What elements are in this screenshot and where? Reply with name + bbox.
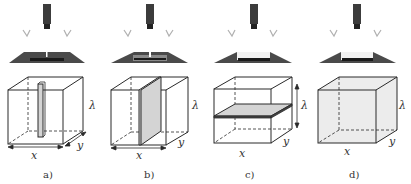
panel-caption: a) [43,170,53,180]
camera-icon [43,4,51,29]
light-source-icon [214,52,292,63]
light-source-icon [111,51,188,63]
x-label: x [31,150,37,161]
panel-b-graphic [100,0,203,184]
camera-icon [353,4,361,29]
lambda-dimension-arrow [295,84,299,128]
lambda-label: λ [192,100,199,111]
panel-caption: c) [245,170,255,180]
lambda-label: λ [399,100,406,111]
panel-caption: b) [144,170,154,180]
panel-b: λ y x b) [100,0,203,184]
camera-icon [250,4,258,29]
x-label: x [136,150,142,161]
camera-icon [146,4,154,29]
x-label: x [344,146,350,157]
light-source-icon [319,52,396,63]
panel-d-graphic [305,0,411,184]
checkmark-icon [124,30,173,36]
y-label: y [77,140,83,151]
panel-a-graphic [0,0,103,184]
panel-c-graphic [200,0,303,184]
cube-wireframe [8,77,83,144]
y-label: y [178,137,184,148]
panel-a: λ y x a) [0,0,103,184]
panel-c: λ y x c) [200,0,303,184]
panel-caption: d) [349,170,359,180]
volume-fill [318,77,397,143]
panel-d: λ y x d) [305,0,408,184]
checkmark-icon [228,30,277,36]
checkmark-icon [23,30,71,36]
y-label: y [389,136,395,147]
x-label: x [239,148,245,159]
light-source-icon [9,51,85,63]
checkmark-icon [330,30,381,36]
y-label: y [283,136,289,147]
lambda-label: λ [89,100,96,111]
plane-slice [214,104,292,118]
plane-slice [139,77,161,145]
